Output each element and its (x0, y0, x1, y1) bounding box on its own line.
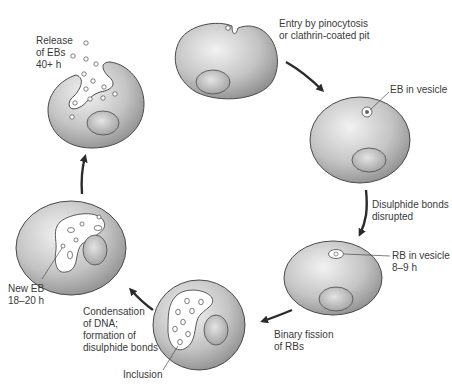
label-binary-fission: Binary fission of RBs (274, 329, 333, 353)
nucleus (87, 111, 119, 135)
nucleus (204, 315, 228, 345)
label-condensation: Condensation of DNA; formation of disulp… (83, 306, 158, 354)
nucleus (352, 148, 386, 172)
arrow-rb-to-inclusion (263, 310, 292, 321)
nucleus (83, 235, 107, 265)
label-eb-in-vesicle: EB in vesicle (390, 84, 447, 96)
cell-rb-vesicle (284, 241, 382, 315)
eb-particle-icon (226, 26, 231, 31)
label-rb-in-vesicle: RB in vesicle 8–9 h (392, 250, 450, 274)
arrow-new-eb-to-release (82, 157, 85, 194)
nucleus (196, 70, 230, 94)
label-release: Release of EBs 40+ h (36, 35, 73, 71)
cell-eb-vesicle (310, 97, 410, 183)
cell-inclusion (153, 280, 245, 370)
label-entry: Entry by pinocytosis or clathrin-coated … (279, 18, 370, 42)
cell-entry (175, 23, 277, 99)
label-new-eb: New EB 18–20 h (8, 283, 44, 307)
arrow-entry-to-eb (286, 62, 322, 90)
label-inclusion: Inclusion (123, 369, 162, 381)
cell-new-eb (16, 201, 126, 295)
arrow-eb-to-rb (360, 190, 367, 234)
label-disulphide-disrupted: Disulphide bonds disrupted (372, 199, 449, 223)
nucleus (319, 287, 353, 311)
